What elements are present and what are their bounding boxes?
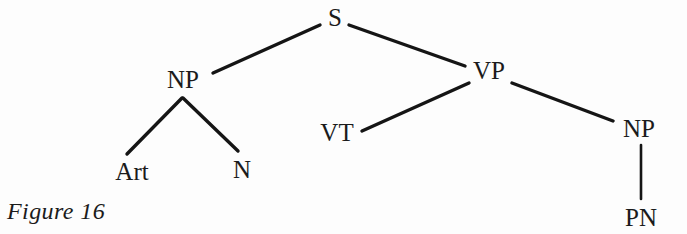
node-label-pn: PN: [625, 204, 657, 231]
branch-np-to-art: [127, 98, 182, 154]
branch-vp-to-vt: [362, 83, 469, 131]
figure-caption: Figure 16: [7, 198, 105, 225]
branch-s-to-vp: [349, 25, 465, 66]
node-label-np-subject: NP: [167, 66, 199, 93]
branch-np-to-n: [183, 98, 238, 151]
tree-branches: [127, 25, 641, 199]
node-label-s: S: [328, 4, 342, 31]
node-label-vt: VT: [320, 119, 353, 146]
node-label-np-object: NP: [623, 115, 655, 142]
figure-container: S NP VP Art N VT NP PN Figure 16: [0, 0, 687, 234]
node-label-vp: VP: [473, 57, 505, 84]
branch-vp-to-np: [512, 83, 613, 121]
node-label-art: Art: [115, 158, 148, 185]
node-label-n: N: [233, 156, 251, 183]
branch-np-to-s: [213, 25, 320, 73]
